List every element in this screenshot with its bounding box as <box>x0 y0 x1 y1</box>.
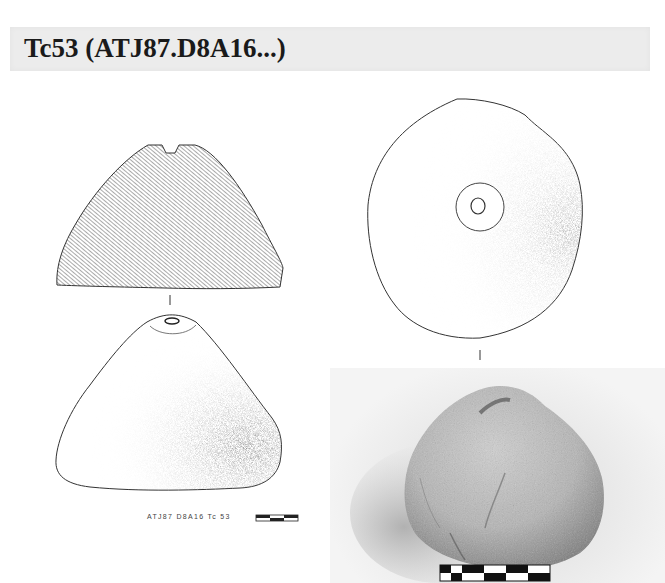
drawing-scale-bar <box>256 515 298 521</box>
drawing-caption: ATJ87 D8A16 Tc 53 <box>147 513 231 520</box>
top-view <box>368 99 583 338</box>
section-view <box>57 145 283 289</box>
side-view <box>56 315 282 490</box>
photo-scale-bar <box>440 565 550 581</box>
artifact-photo <box>330 368 665 583</box>
